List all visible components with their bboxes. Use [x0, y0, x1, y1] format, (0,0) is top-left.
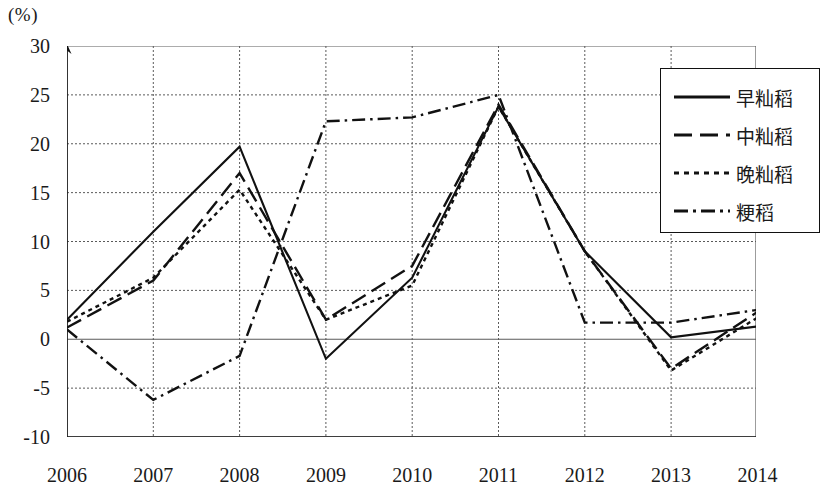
plot-area	[67, 46, 756, 437]
chart-canvas: (%) 302520151050-5-10 200620072008200920…	[0, 0, 836, 502]
x-axis-tick-label: 2006	[27, 465, 107, 485]
x-axis-tick-label: 2009	[286, 465, 366, 485]
y-axis-tick-label: 25	[0, 85, 50, 105]
y-axis-tick-label: 10	[0, 232, 50, 252]
legend-item: 早籼稻	[661, 78, 819, 116]
x-axis-tick-label: 2013	[631, 465, 711, 485]
y-axis-tick-label: -10	[0, 427, 50, 447]
chart-legend: 早籼稻 中籼稻 晚籼稻 粳稻	[660, 68, 820, 233]
legend-key-dashed	[672, 129, 732, 141]
x-axis-tick-label: 2011	[459, 465, 539, 485]
x-axis-tick-label: 2010	[372, 465, 452, 485]
legend-key-dashdot	[672, 205, 732, 217]
y-axis-unit-label: (%)	[8, 4, 38, 26]
y-axis-tick-label: 0	[0, 329, 50, 349]
y-axis-tick-label: 5	[0, 280, 50, 300]
legend-item: 中籼稻	[661, 116, 819, 154]
y-axis-tick-label: -5	[0, 378, 50, 398]
legend-label: 早籼稻	[736, 84, 793, 111]
series-line-3	[67, 95, 756, 400]
x-axis-tick-label: 2012	[545, 465, 625, 485]
legend-key-solid	[672, 91, 732, 103]
y-axis-tick-label: 30	[0, 36, 50, 56]
legend-item: 晚籼稻	[661, 154, 819, 192]
legend-label: 晚籼稻	[736, 160, 793, 187]
y-axis-tick-label: 15	[0, 183, 50, 203]
legend-key-dotted	[672, 167, 732, 179]
legend-label: 粳稻	[736, 198, 774, 225]
x-axis-tick-label: 2014	[717, 465, 797, 485]
series-line-2	[67, 107, 756, 371]
series-line-0	[67, 107, 756, 359]
x-axis-tick-label: 2007	[113, 465, 193, 485]
x-axis-tick-label: 2008	[200, 465, 280, 485]
line-chart-svg	[67, 46, 756, 437]
legend-item: 粳稻	[661, 192, 819, 230]
legend-label: 中籼稻	[736, 122, 793, 149]
y-axis-tick-label: 20	[0, 134, 50, 154]
